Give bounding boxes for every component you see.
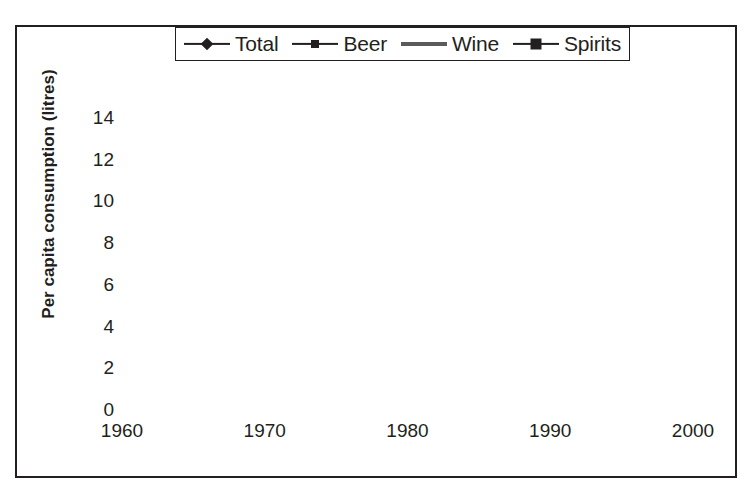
legend-item-wine[interactable]: Wine [394, 32, 506, 56]
chart-figure: Total Beer Wine Spirits Per capita consu… [0, 0, 753, 494]
y-tick-0: 0 [84, 399, 114, 421]
legend-marker-line-icon [401, 37, 447, 51]
legend-label-beer: Beer [343, 32, 387, 56]
legend-marker-square-large-icon [513, 37, 559, 51]
legend-label-wine: Wine [452, 32, 499, 56]
y-axis-title: Per capita consumption (litres) [39, 49, 59, 339]
legend-marker-diamond-icon [184, 37, 230, 51]
y-tick-12: 12 [84, 149, 114, 171]
legend-label-total: Total [235, 32, 278, 56]
y-tick-14: 14 [84, 107, 114, 129]
y-tick-6: 6 [84, 274, 114, 296]
y-tick-2: 2 [84, 357, 114, 379]
y-tick-4: 4 [84, 316, 114, 338]
legend-item-total[interactable]: Total [177, 32, 285, 56]
legend-marker-square-small-icon [292, 37, 338, 51]
legend-label-spirits: Spirits [564, 32, 621, 56]
chart-legend: Total Beer Wine Spirits [175, 27, 630, 61]
legend-item-beer[interactable]: Beer [285, 32, 394, 56]
x-tick-1960: 1960 [87, 420, 157, 442]
legend-item-spirits[interactable]: Spirits [506, 32, 628, 56]
figure-frame [15, 25, 737, 478]
x-tick-1980: 1980 [373, 420, 443, 442]
y-tick-10: 10 [84, 190, 114, 212]
x-tick-1990: 1990 [515, 420, 585, 442]
x-tick-2000: 2000 [658, 420, 728, 442]
x-tick-1970: 1970 [230, 420, 300, 442]
y-tick-8: 8 [84, 232, 114, 254]
